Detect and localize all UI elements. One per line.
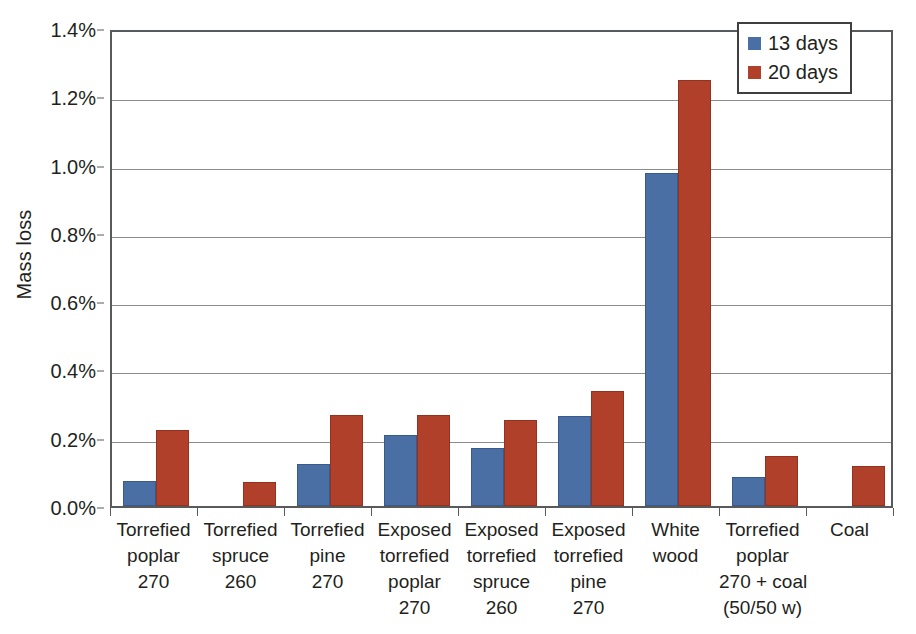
bars-layer bbox=[112, 32, 891, 506]
bar bbox=[243, 482, 276, 506]
y-axis-tick-label: 0.2% bbox=[50, 428, 96, 451]
x-axis-category-label-line: spruce bbox=[458, 569, 545, 595]
x-axis-category-label-line: Exposed bbox=[458, 517, 545, 543]
bar bbox=[645, 173, 678, 506]
x-axis-category-label-line: 270 bbox=[371, 595, 458, 621]
x-axis-category-label-line: torrefied bbox=[458, 543, 545, 569]
x-axis-tick-mark bbox=[806, 508, 807, 516]
bar-group bbox=[384, 32, 450, 506]
bar bbox=[417, 415, 450, 506]
y-axis-tick-label: 0.6% bbox=[50, 292, 96, 315]
y-axis-tick-mark bbox=[97, 439, 104, 440]
x-axis-tick-mark bbox=[893, 508, 894, 516]
bar bbox=[384, 435, 417, 506]
bar bbox=[852, 466, 885, 506]
x-axis-category-labels: Torrefiedpoplar270Torrefiedspruce260Torr… bbox=[110, 517, 893, 627]
y-axis-tick-mark bbox=[97, 508, 104, 509]
bar-group bbox=[819, 32, 885, 506]
bar-chart: Mass loss 0.0%0.2%0.4%0.6%0.8%1.0%1.2%1.… bbox=[0, 0, 916, 634]
x-axis-tick-mark bbox=[197, 508, 198, 516]
x-axis-tick-mark bbox=[110, 508, 111, 516]
y-axis-tick-mark bbox=[97, 166, 104, 167]
x-axis-category-label-line: 270 bbox=[545, 595, 632, 621]
bar-group bbox=[471, 32, 537, 506]
x-axis-category-label: Torrefiedpoplar270 bbox=[110, 517, 197, 595]
x-axis-category-label: Exposedtorrefiedpoplar270 bbox=[371, 517, 458, 621]
legend-label: 13 days bbox=[768, 32, 838, 55]
x-axis-tick-mark bbox=[545, 508, 546, 516]
x-axis-category-label-line: poplar bbox=[110, 543, 197, 569]
bar bbox=[558, 416, 591, 506]
y-axis-tick-label: 0.8% bbox=[50, 223, 96, 246]
y-axis-tick-labels: 0.0%0.2%0.4%0.6%0.8%1.0%1.2%1.4% bbox=[36, 30, 104, 508]
y-axis-title-text: Mass loss bbox=[14, 209, 37, 299]
x-axis-tick-mark bbox=[632, 508, 633, 516]
x-axis-category-label-line: poplar bbox=[371, 569, 458, 595]
bar bbox=[678, 80, 711, 506]
y-axis-tick-label: 0.0% bbox=[50, 497, 96, 520]
bar bbox=[591, 391, 624, 506]
y-axis-tick-mark bbox=[97, 303, 104, 304]
x-axis-category-label-line: torrefied bbox=[545, 543, 632, 569]
bar bbox=[123, 481, 156, 506]
x-axis-category-label-line: 260 bbox=[197, 569, 284, 595]
bar-group bbox=[123, 32, 189, 506]
x-axis-category-label: Exposedtorrefiedspruce260 bbox=[458, 517, 545, 621]
bar bbox=[765, 456, 798, 506]
x-axis-tick-mark bbox=[458, 508, 459, 516]
x-axis-category-label-line: Torrefied bbox=[284, 517, 371, 543]
x-axis-category-label: Torrefiedspruce260 bbox=[197, 517, 284, 595]
x-axis-category-label-line: 270 + coal bbox=[719, 569, 806, 595]
x-axis-category-label-line: White bbox=[632, 517, 719, 543]
x-axis-tick-mark bbox=[371, 508, 372, 516]
x-axis-category-label-line: 260 bbox=[458, 595, 545, 621]
x-axis-category-label-line: Coal bbox=[806, 517, 893, 543]
bar-group bbox=[297, 32, 363, 506]
bar bbox=[297, 464, 330, 506]
x-axis-category-label: Coal bbox=[806, 517, 893, 543]
y-axis-tick-label: 1.2% bbox=[50, 87, 96, 110]
y-axis-tick-mark bbox=[97, 234, 104, 235]
x-axis-category-label-line: Exposed bbox=[371, 517, 458, 543]
bar bbox=[732, 477, 765, 506]
bar bbox=[471, 448, 504, 506]
y-axis-tick-mark bbox=[97, 371, 104, 372]
y-axis-tick-label: 0.4% bbox=[50, 360, 96, 383]
bar bbox=[504, 420, 537, 506]
legend-color-swatch bbox=[748, 66, 761, 79]
x-axis-tick-mark bbox=[719, 508, 720, 516]
legend: 13 days20 days bbox=[737, 22, 852, 94]
x-axis-category-label-line: poplar bbox=[719, 543, 806, 569]
x-axis-category-label-line: Torrefied bbox=[719, 517, 806, 543]
legend-entry: 20 days bbox=[748, 58, 838, 87]
y-axis-tick-label: 1.4% bbox=[50, 19, 96, 42]
bar bbox=[156, 430, 189, 506]
x-axis-category-label: Torrefiedpine270 bbox=[284, 517, 371, 595]
x-axis-category-label: Exposedtorrefiedpine270 bbox=[545, 517, 632, 621]
legend-label: 20 days bbox=[768, 61, 838, 84]
x-axis-tick-marks bbox=[110, 508, 893, 517]
x-axis-category-label: Whitewood bbox=[632, 517, 719, 569]
x-axis-category-label: Torrefiedpoplar270 + coal(50/50 w) bbox=[719, 517, 806, 621]
y-axis-tick-label: 1.0% bbox=[50, 155, 96, 178]
plot-area bbox=[110, 30, 893, 508]
x-axis-category-label-line: (50/50 w) bbox=[719, 595, 806, 621]
x-axis-category-label-line: 270 bbox=[284, 569, 371, 595]
x-axis-category-label-line: spruce bbox=[197, 543, 284, 569]
x-axis-category-label-line: Torrefied bbox=[197, 517, 284, 543]
bar bbox=[330, 415, 363, 506]
x-axis-category-label-line: torrefied bbox=[371, 543, 458, 569]
bar-group bbox=[732, 32, 798, 506]
y-axis-tick-mark bbox=[97, 30, 104, 31]
x-axis-category-label-line: pine bbox=[284, 543, 371, 569]
legend-entry: 13 days bbox=[748, 29, 838, 58]
bar-group bbox=[210, 32, 276, 506]
x-axis-category-label-line: 270 bbox=[110, 569, 197, 595]
x-axis-category-label-line: Exposed bbox=[545, 517, 632, 543]
x-axis-tick-mark bbox=[284, 508, 285, 516]
x-axis-category-label-line: Torrefied bbox=[110, 517, 197, 543]
x-axis-category-label-line: wood bbox=[632, 543, 719, 569]
y-axis-tick-mark bbox=[97, 98, 104, 99]
legend-color-swatch bbox=[748, 37, 761, 50]
bar-group bbox=[558, 32, 624, 506]
